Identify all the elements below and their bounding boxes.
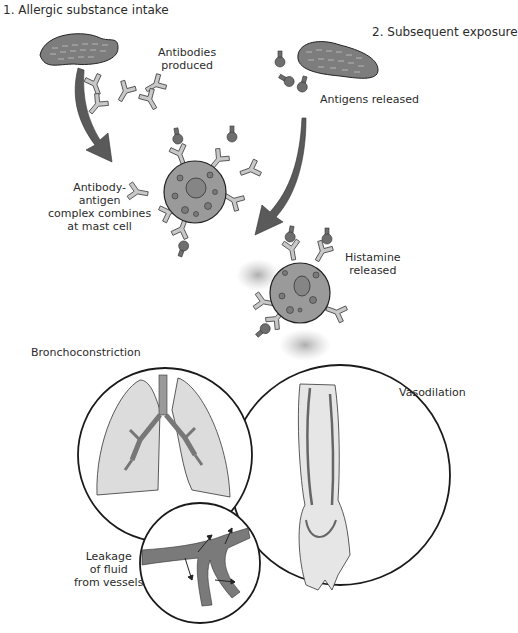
- leakage-circle: [140, 503, 260, 623]
- antigens-released-label: Antigens released: [320, 93, 419, 106]
- complex-combines-label: Antibody- antigen complex combines at ma…: [48, 181, 151, 233]
- mast-cell-2: [236, 225, 348, 361]
- step-2-label: 2. Subsequent exposure: [372, 26, 518, 39]
- leakage-label: Leakage of fluid from vessels: [74, 550, 143, 589]
- antibodies-produced-label: Antibodies produced: [158, 46, 216, 72]
- antibody-cluster-1: [83, 72, 168, 118]
- vasodilation-label: Vasodilation: [399, 386, 466, 399]
- arrow-2: [255, 118, 306, 235]
- bronchoconstriction-label: Bronchoconstriction: [31, 346, 141, 359]
- histamine-released-label: Histamine released: [345, 251, 401, 277]
- peanut-allergen-1: [40, 34, 118, 65]
- step-1-label: 1. Allergic substance intake: [3, 4, 169, 17]
- peanut-allergen-2: [298, 42, 378, 79]
